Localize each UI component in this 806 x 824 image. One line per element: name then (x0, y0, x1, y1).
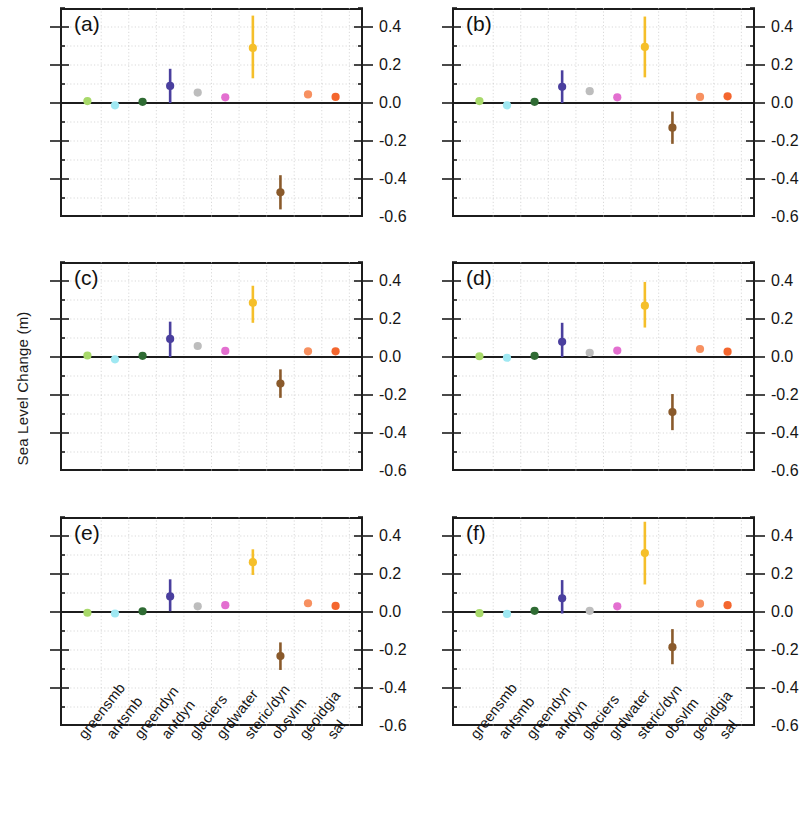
panel-c: (c)0.40.20.0-0.2-0.4-0.6 (60, 262, 363, 471)
y-tick-label: 0.4 (771, 18, 793, 36)
y-tick-label: 0.4 (379, 527, 401, 545)
y-tick-label: 0.2 (379, 310, 401, 328)
y-tick-label: 0.4 (771, 272, 793, 290)
panel-label: (d) (466, 266, 492, 290)
y-tick-label: -0.6 (379, 208, 407, 226)
panel-label: (a) (74, 12, 100, 36)
y-tick-label: -0.6 (379, 462, 407, 480)
y-tick-label: -0.6 (771, 208, 799, 226)
y-tick-label: 0.0 (379, 603, 401, 621)
y-tick-label: -0.2 (379, 641, 407, 659)
y-tick-label: 0.2 (379, 565, 401, 583)
panel-label: (c) (74, 266, 99, 290)
y-tick-label: -0.4 (771, 424, 799, 442)
panel-a: (a)0.40.20.0-0.2-0.4-0.6 (60, 8, 363, 217)
y-tick-label: 0.2 (771, 565, 793, 583)
y-tick-label: -0.6 (771, 717, 799, 735)
panel-label: (b) (466, 12, 492, 36)
panel-d: (d)0.40.20.0-0.2-0.4-0.6 (452, 262, 755, 471)
tick-layer (452, 8, 755, 217)
y-tick-label: 0.0 (379, 348, 401, 366)
y-tick-label: 0.2 (771, 56, 793, 74)
y-tick-label: -0.6 (771, 462, 799, 480)
y-tick-label: 0.0 (771, 603, 793, 621)
y-tick-label: -0.4 (379, 679, 407, 697)
figure-root: Sea Level Change (m) (a)0.40.20.0-0.2-0.… (0, 0, 806, 824)
x-axis-labels: greensmbantsmbgreendynantdynglaciersgrdw… (60, 732, 363, 824)
y-tick-label: -0.6 (379, 717, 407, 735)
y-tick-label: -0.2 (379, 132, 407, 150)
panel-b: (b)0.40.20.0-0.2-0.4-0.6 (452, 8, 755, 217)
panel-label: (f) (466, 521, 486, 545)
y-tick-label: 0.0 (379, 94, 401, 112)
y-tick-label: -0.2 (771, 132, 799, 150)
y-tick-label: 0.4 (379, 18, 401, 36)
y-tick-label: -0.4 (379, 424, 407, 442)
y-tick-label: -0.4 (771, 170, 799, 188)
y-tick-label: -0.4 (771, 679, 799, 697)
tick-layer (60, 8, 363, 217)
y-tick-label: 0.0 (771, 94, 793, 112)
tick-layer (60, 262, 363, 471)
y-tick-label: 0.2 (379, 56, 401, 74)
y-tick-label: -0.2 (771, 641, 799, 659)
y-tick-label: -0.4 (379, 170, 407, 188)
y-tick-label: 0.4 (379, 272, 401, 290)
tick-layer (452, 262, 755, 471)
panel-label: (e) (74, 521, 100, 545)
y-tick-label: 0.0 (771, 348, 793, 366)
y-tick-label: -0.2 (379, 386, 407, 404)
y-tick-label: -0.2 (771, 386, 799, 404)
x-axis-labels: greensmbantsmbgreendynantdynglaciersgrdw… (452, 732, 755, 824)
y-axis-label: Sea Level Change (m) (14, 289, 31, 489)
y-tick-label: 0.2 (771, 310, 793, 328)
y-tick-label: 0.4 (771, 527, 793, 545)
